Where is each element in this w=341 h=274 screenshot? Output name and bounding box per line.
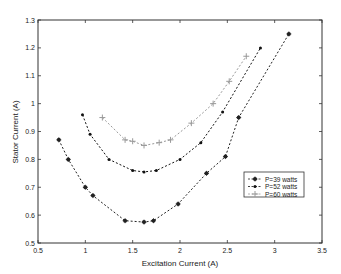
- x-tick-label: 1.5: [128, 247, 138, 254]
- x-tick-label: 0.5: [33, 247, 43, 254]
- y-tick-label: 0.6: [25, 212, 35, 219]
- x-tick-label: 3.5: [317, 247, 327, 254]
- y-tick-label: 1.2: [25, 44, 35, 51]
- line-chart: 0.511.522.533.50.50.60.70.80.911.11.21.3…: [0, 0, 341, 274]
- y-axis-label: Stator Current (A): [11, 100, 20, 163]
- legend-label: P=39 watts: [265, 176, 298, 183]
- plot-frame: [38, 20, 322, 243]
- legend-label: P=60 watts: [265, 191, 298, 198]
- y-tick-label: 0.9: [25, 128, 35, 135]
- x-tick-label: 2.5: [222, 247, 232, 254]
- x-tick-label: 1: [83, 247, 87, 254]
- y-tick-label: 0.8: [25, 156, 35, 163]
- x-tick-label: 3: [273, 247, 277, 254]
- legend-label: P=52 watts: [265, 183, 298, 190]
- y-tick-label: 1: [31, 100, 35, 107]
- x-tick-label: 2: [178, 247, 182, 254]
- y-tick-label: 1.3: [25, 17, 35, 24]
- y-tick-label: 1.1: [25, 72, 35, 79]
- series-1: [81, 46, 262, 173]
- y-tick-label: 0.5: [25, 240, 35, 247]
- legend: P=39 wattsP=52 wattsP=60 watts: [244, 172, 304, 198]
- x-axis-label: Excitation Current (A): [142, 259, 219, 268]
- series-2: [99, 53, 249, 148]
- y-tick-label: 0.7: [25, 184, 35, 191]
